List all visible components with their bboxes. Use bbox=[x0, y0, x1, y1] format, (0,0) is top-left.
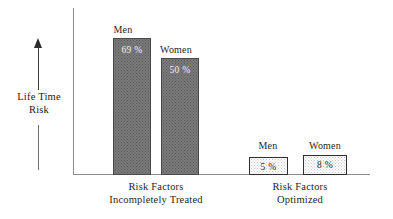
bar-caption-women-treated: Women bbox=[143, 44, 209, 55]
y-axis-arrow-shaft-lower bbox=[38, 125, 39, 170]
bar-caption-women-optimized: Women bbox=[299, 140, 351, 151]
bar-chart-figure: Life Time Risk Men 69 % Women 50 % Risk … bbox=[0, 0, 393, 219]
group-label-treated-line1: Risk Factors bbox=[96, 180, 216, 193]
y-axis-label: Life Time Risk bbox=[0, 90, 78, 116]
group-label-optimized: Risk Factors Optimized bbox=[240, 180, 360, 206]
bar-caption-men-optimized: Men bbox=[246, 140, 290, 151]
group-label-optimized-line1: Risk Factors bbox=[240, 180, 360, 193]
y-axis-label-line2: Risk bbox=[0, 103, 78, 116]
bar-women-treated: 50 % bbox=[161, 58, 199, 175]
group-label-incompletely-treated: Risk Factors Incompletely Treated bbox=[96, 180, 216, 206]
bar-value-women-optimized: 8 % bbox=[304, 160, 346, 170]
bar-value-men-optimized: 5 % bbox=[250, 162, 287, 172]
bar-value-women-treated: 50 % bbox=[162, 65, 198, 75]
bar-men-treated: 69 % bbox=[113, 38, 151, 175]
bar-caption-men-treated: Men bbox=[94, 24, 152, 35]
y-axis-label-line1: Life Time bbox=[0, 90, 78, 103]
group-label-optimized-line2: Optimized bbox=[240, 193, 360, 206]
bar-women-optimized: 8 % bbox=[303, 155, 347, 175]
y-axis-arrow-shaft-upper bbox=[38, 46, 39, 90]
group-label-treated-line2: Incompletely Treated bbox=[96, 193, 216, 206]
bar-men-optimized: 5 % bbox=[249, 157, 288, 175]
